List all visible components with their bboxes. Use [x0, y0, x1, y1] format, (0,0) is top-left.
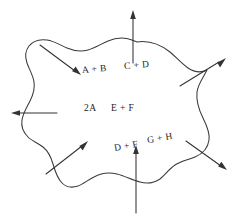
- species-label-products-top: C + D: [124, 59, 150, 71]
- control-volume-diagram: A + B C + D 2A E + F D + F G + H: [0, 0, 239, 224]
- arrow-upper-right-out: [180, 58, 226, 86]
- arrow-lower-right-out: [186, 141, 227, 170]
- arrow-bottom-in: [133, 145, 139, 213]
- species-label-reactants-top: A + B: [82, 63, 108, 75]
- species-label-reactants-middle: 2A: [84, 103, 96, 113]
- arrow-upper-left-in: [40, 45, 81, 75]
- arrow-top-out: [130, 10, 136, 63]
- species-label-products-middle: E + F: [111, 103, 134, 113]
- arrow-left-out: [11, 110, 57, 116]
- arrow-lower-left-in: [46, 141, 88, 174]
